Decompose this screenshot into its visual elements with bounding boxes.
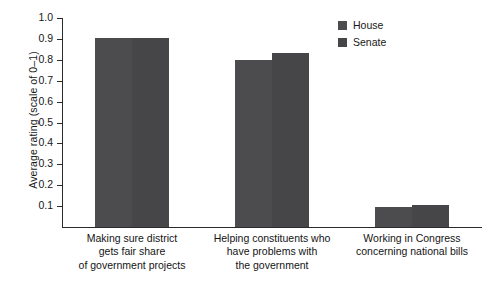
- category-label-2: Working in Congressconcerning national b…: [330, 232, 489, 259]
- plot-area: 0.10.20.30.40.50.60.70.80.91.0 Making su…: [62, 18, 482, 227]
- y-axis-tick: 0.1: [57, 206, 62, 207]
- y-axis-tick-label: 1.0: [38, 11, 53, 24]
- bar-house-0: [95, 38, 132, 227]
- y-axis-tick: 0.5: [57, 123, 62, 124]
- legend-item-senate: Senate: [338, 35, 386, 50]
- category-label-line: Working in Congress: [330, 232, 489, 245]
- bar-chart-figure: Average rating (scale of 0–1) 0.10.20.30…: [0, 0, 489, 288]
- legend-label-house: House: [353, 20, 383, 31]
- bar-senate-2: [412, 205, 449, 227]
- y-axis-tick: 0.6: [57, 102, 62, 103]
- y-axis-tick: 0.3: [57, 164, 62, 165]
- bar-senate-0: [132, 38, 169, 227]
- legend-swatch-icon-house: [338, 21, 347, 30]
- y-axis-tick-label: 0.9: [38, 32, 53, 45]
- y-axis-tick-label: 0.7: [38, 74, 53, 87]
- y-axis-tick: 1.0: [57, 18, 62, 19]
- category-label-line: the government: [190, 259, 354, 272]
- y-axis-tick-label: 0.8: [38, 53, 53, 66]
- chart-legend: House Senate: [338, 18, 386, 52]
- bar-house-1: [235, 60, 272, 227]
- legend-item-house: House: [338, 18, 386, 33]
- y-axis-tick-label: 0.5: [38, 116, 53, 129]
- legend-label-senate: Senate: [353, 37, 386, 48]
- y-axis-tick-label: 0.2: [38, 178, 53, 191]
- y-axis-tick-label: 0.4: [38, 136, 53, 149]
- bar-house-2: [375, 207, 412, 227]
- y-axis-tick: 0.2: [57, 185, 62, 186]
- y-axis-tick: 0.7: [57, 81, 62, 82]
- y-axis-tick: 0.8: [57, 60, 62, 61]
- y-axis-tick-label: 0.6: [38, 95, 53, 108]
- y-axis-tick: 0.4: [57, 143, 62, 144]
- y-axis-tick-label: 0.1: [38, 199, 53, 212]
- y-axis-title: Average rating (scale of 0–1): [27, 15, 39, 225]
- y-axis-line: [62, 18, 63, 227]
- bar-senate-1: [272, 53, 309, 228]
- legend-swatch-icon-senate: [338, 38, 347, 47]
- y-axis-tick: 0.9: [57, 39, 62, 40]
- y-axis-tick-label: 0.3: [38, 157, 53, 170]
- category-label-line: concerning national bills: [330, 245, 489, 258]
- x-axis-line: [62, 227, 482, 228]
